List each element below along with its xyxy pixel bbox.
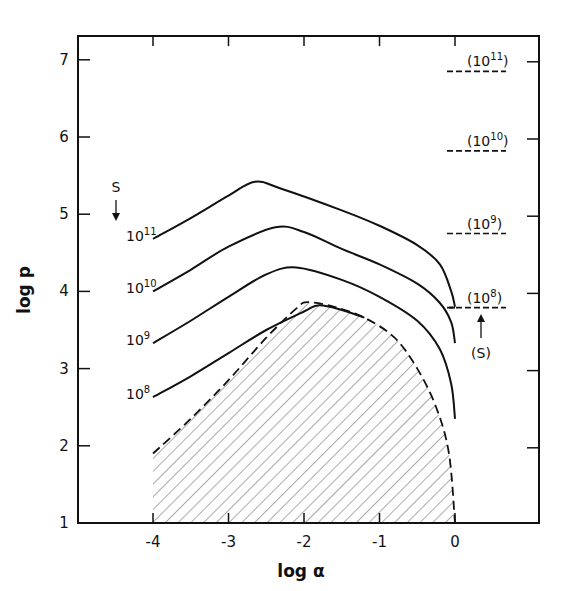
asymptote-lines: (1011)(1010)(109)(108) (447, 51, 508, 307)
arrowhead-icon (477, 314, 485, 322)
s-annotation-right: (S) (471, 314, 491, 361)
asymptote-label: (109) (467, 214, 502, 232)
s-annotation-top: S (112, 179, 121, 221)
x-tick-label: -4 (146, 533, 161, 551)
asymptote-label: (108) (467, 288, 502, 306)
chart: -4-3-2-10 1234567 (1011)(1010)(109)(108)… (0, 0, 567, 591)
y-tick-label: 7 (59, 51, 69, 69)
curve-label: 1011 (126, 226, 157, 244)
s-label-top: S (112, 179, 121, 195)
y-tick-label: 4 (59, 282, 69, 300)
asymptote-label: (1011) (467, 51, 508, 69)
series-curve (153, 182, 455, 307)
curve-labels: 10111010109108 (126, 226, 157, 402)
asymptote-label: (1010) (467, 131, 508, 149)
x-tick-label: -1 (372, 533, 387, 551)
x-tick-label: -3 (221, 533, 236, 551)
y-tick-label: 6 (59, 128, 69, 146)
y-tick-label: 1 (59, 514, 69, 532)
y-tick-label: 3 (59, 360, 69, 378)
s-label-right: (S) (471, 345, 491, 361)
curve-label: 108 (126, 384, 150, 402)
x-tick-label: -2 (297, 533, 312, 551)
x-axis-title: log α (277, 561, 324, 581)
x-tick-label: 0 (450, 533, 460, 551)
y-tick-label: 2 (59, 437, 69, 455)
y-tick-label: 5 (59, 205, 69, 223)
arrowhead-icon (112, 213, 120, 221)
y-axis-title: log p (14, 266, 34, 314)
curve-label: 1010 (126, 278, 157, 296)
curve-label: 109 (126, 330, 150, 348)
